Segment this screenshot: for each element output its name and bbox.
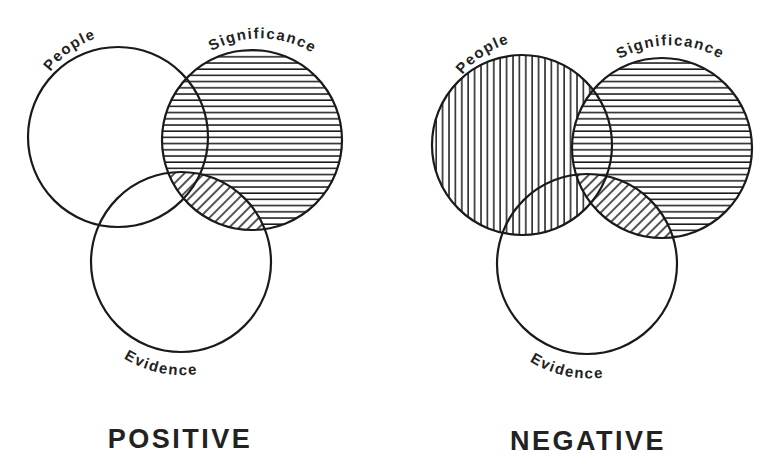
venn-diagram-figure: People Significance Evidence POSITIVE Pe…: [0, 0, 764, 470]
positive-venn: People Significance Evidence POSITIVE: [28, 24, 342, 454]
positive-people-label: People: [39, 25, 97, 74]
negative-venn: People Significance Evidence NEGATIVE: [432, 30, 752, 456]
negative-significance-label: Significance: [613, 31, 728, 62]
positive-title: POSITIVE: [108, 424, 253, 454]
negative-title: NEGATIVE: [510, 426, 666, 456]
positive-evidence-circle: [91, 172, 271, 352]
